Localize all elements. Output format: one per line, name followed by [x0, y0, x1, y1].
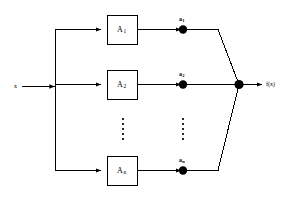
node-label-an: an — [179, 157, 185, 165]
blocks-ellipsis — [121, 118, 125, 140]
output-label: f(x) — [266, 81, 275, 87]
block-label-a1: A1 — [117, 26, 126, 35]
block-label-a1-text: A — [117, 25, 123, 34]
block-label-a1-subscript: 1 — [123, 28, 126, 34]
block-label-a2-subscript: 2 — [123, 83, 126, 89]
node-label-a2-subscript: 2 — [182, 73, 185, 78]
node-to-sum-path-1 — [186, 30, 240, 85]
node-label-a2: a2 — [179, 71, 185, 79]
node-label-an-subscript: n — [182, 159, 185, 164]
node-label-a1-subscript: 1 — [182, 18, 185, 23]
weight-node-1 — [179, 25, 187, 33]
nodes-ellipsis — [181, 118, 185, 140]
node-label-a1: a1 — [179, 16, 185, 24]
weight-node-n — [179, 166, 187, 174]
figure-canvas: A1 A2 An a1 a2 an x f(x) — [0, 0, 286, 202]
weight-node-2 — [179, 80, 187, 88]
block-label-a2-text: A — [117, 80, 123, 89]
block-label-an-subscript: n — [123, 169, 126, 175]
summing-junction — [234, 80, 243, 89]
block-label-an-text: A — [117, 166, 123, 175]
input-label: x — [14, 83, 17, 89]
block-label-a2: A2 — [117, 81, 126, 90]
node-to-sum-path-n — [186, 85, 240, 171]
diagram-svg — [0, 0, 286, 202]
block-label-an: An — [117, 167, 126, 176]
